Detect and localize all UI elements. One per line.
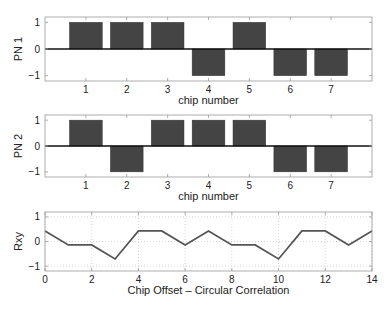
x-tick-label: 5 xyxy=(247,84,253,95)
bar xyxy=(274,49,307,76)
bar xyxy=(151,120,184,146)
bar xyxy=(151,22,184,49)
bar xyxy=(192,120,225,146)
bar xyxy=(233,120,266,146)
bar xyxy=(274,146,307,172)
y-tick-label: −1 xyxy=(29,166,41,177)
bar xyxy=(70,22,103,49)
bar xyxy=(315,146,348,172)
bar xyxy=(315,49,348,76)
pn1-plot: 1234567−101chip numberPN 1 xyxy=(12,17,372,106)
bar xyxy=(192,49,225,76)
x-axis-label: Chip Offset – Circular Correlation xyxy=(128,284,290,296)
x-tick-label: 14 xyxy=(366,274,378,285)
x-tick-label: 2 xyxy=(89,274,95,285)
correlation-line xyxy=(45,231,372,259)
y-tick-label: 1 xyxy=(34,17,40,28)
axes-frame xyxy=(45,212,372,271)
rxy-plot: 02468101214−101Chip Offset – Circular Co… xyxy=(12,211,378,296)
y-axis-label: PN 2 xyxy=(12,134,24,158)
x-axis-label: chip number xyxy=(178,190,239,202)
x-tick-label: 0 xyxy=(42,274,48,285)
y-axis-label: Rxy xyxy=(12,232,24,251)
bar xyxy=(70,120,103,146)
x-tick-label: 2 xyxy=(124,84,130,95)
x-tick-label: 3 xyxy=(165,180,171,191)
x-tick-label: 2 xyxy=(124,180,130,191)
y-tick-label: −1 xyxy=(29,70,41,81)
bar xyxy=(110,22,143,49)
y-tick-label: 0 xyxy=(34,141,40,152)
x-tick-label: 3 xyxy=(165,84,171,95)
pn2-plot: 1234567−101chip numberPN 2 xyxy=(12,115,372,202)
figure: 1234567−101chip numberPN 11234567−101chi… xyxy=(0,0,392,312)
x-tick-label: 7 xyxy=(328,84,334,95)
bar xyxy=(233,22,266,49)
x-tick-label: 6 xyxy=(287,180,293,191)
x-tick-label: 6 xyxy=(287,84,293,95)
bar xyxy=(110,146,143,172)
y-tick-label: −1 xyxy=(29,261,41,272)
x-tick-label: 5 xyxy=(247,180,253,191)
x-tick-label: 12 xyxy=(320,274,332,285)
x-tick-label: 1 xyxy=(83,84,89,95)
x-axis-label: chip number xyxy=(178,94,239,106)
x-tick-label: 1 xyxy=(83,180,89,191)
y-tick-label: 1 xyxy=(34,211,40,222)
x-tick-label: 7 xyxy=(328,180,334,191)
y-tick-label: 1 xyxy=(34,115,40,126)
y-axis-label: PN 1 xyxy=(12,37,24,61)
y-tick-label: 0 xyxy=(34,236,40,247)
y-tick-label: 0 xyxy=(34,44,40,55)
